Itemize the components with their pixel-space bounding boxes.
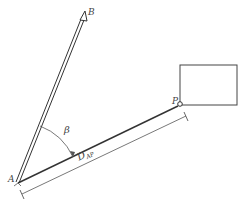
point-a-marker (14, 183, 21, 186)
pole-tip-triangle-icon (80, 11, 87, 21)
survey-diagram: B A P β D AP (0, 0, 245, 207)
label-angle-beta: β (63, 124, 70, 135)
label-point-a: A (7, 174, 15, 184)
label-point-b: B (87, 7, 95, 17)
label-distance-ap: D AP (74, 145, 96, 164)
point-p-marker (178, 102, 183, 107)
pole-ab (16, 19, 84, 183)
label-point-p: P (171, 96, 179, 106)
dimension-line-ap (20, 112, 188, 199)
target-rectangle (180, 65, 237, 105)
